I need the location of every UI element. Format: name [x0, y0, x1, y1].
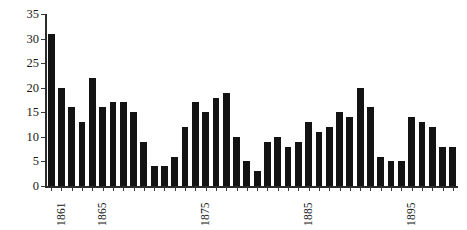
x-axis-tick-mark: [391, 187, 392, 191]
x-axis-tick-mark: [401, 187, 402, 191]
x-axis-tick-mark: [360, 187, 361, 191]
bar: [161, 166, 168, 186]
bar: [388, 161, 395, 186]
y-axis-tick-label: 5: [33, 155, 39, 167]
x-axis-tick-mark: [350, 187, 351, 191]
x-axis-tick-labels: 18611865187518851895: [46, 192, 458, 230]
bar: [439, 147, 446, 186]
x-axis-tick-mark: [61, 187, 62, 191]
x-axis-tick-label: 1895: [406, 202, 417, 226]
x-axis-tick-mark: [370, 187, 371, 191]
x-axis-tick-mark: [381, 187, 382, 191]
x-axis-tick-mark: [103, 187, 104, 191]
bar: [79, 122, 86, 186]
bar: [274, 137, 281, 186]
bar: [346, 117, 353, 186]
bar: [408, 117, 415, 186]
bar: [295, 142, 302, 186]
bar: [357, 88, 364, 186]
x-axis-tick-mark: [82, 187, 83, 191]
x-axis-tick-mark: [329, 187, 330, 191]
x-axis-tick-mark: [72, 187, 73, 191]
x-axis-tick-mark: [185, 187, 186, 191]
bar-chart-figure: 05101520253035 18611865187518851895: [0, 0, 467, 230]
bar: [130, 112, 137, 186]
bar: [68, 107, 75, 186]
x-axis-tick-label: 1885: [303, 202, 314, 226]
bar: [326, 127, 333, 186]
x-axis-tick-mark: [432, 187, 433, 191]
bar: [336, 112, 343, 186]
bar: [449, 147, 456, 186]
x-axis-tick-mark: [51, 187, 52, 191]
x-axis-tick-mark: [206, 187, 207, 191]
x-axis-tick-mark: [319, 187, 320, 191]
bar: [419, 122, 426, 186]
bar: [264, 142, 271, 186]
x-axis-tick-mark: [237, 187, 238, 191]
bar: [223, 93, 230, 186]
x-axis-tick-mark: [134, 187, 135, 191]
bar: [305, 122, 312, 186]
x-axis-tick-mark: [195, 187, 196, 191]
bar: [58, 88, 65, 186]
x-axis-tick-mark: [247, 187, 248, 191]
x-axis-tick-mark: [309, 187, 310, 191]
x-axis-tick-mark: [154, 187, 155, 191]
y-axis-tick-label: 10: [27, 131, 40, 143]
bar: [151, 166, 158, 186]
bar: [254, 171, 261, 186]
y-axis-tick-label: 20: [27, 82, 40, 94]
bar: [243, 161, 250, 186]
x-axis-tick-mark: [422, 187, 423, 191]
x-axis-tick-mark: [175, 187, 176, 191]
x-axis-tick-mark: [278, 187, 279, 191]
plot-area: [46, 14, 458, 186]
x-axis-tick-mark: [226, 187, 227, 191]
x-axis-tick-mark: [298, 187, 299, 191]
x-axis-tick-mark: [267, 187, 268, 191]
bar: [110, 102, 117, 186]
bar: [285, 147, 292, 186]
x-axis-tick-mark: [412, 187, 413, 191]
bar: [429, 127, 436, 186]
x-axis-tick-mark: [164, 187, 165, 191]
bar: [182, 127, 189, 186]
x-axis-tick-mark: [257, 187, 258, 191]
y-axis-tick-label: 25: [27, 57, 40, 69]
bar: [99, 107, 106, 186]
y-axis-tick-label: 0: [33, 180, 39, 192]
x-axis-tick-label: 1875: [200, 202, 211, 226]
bar: [377, 157, 384, 186]
y-axis-tick-label: 35: [27, 8, 40, 20]
bar: [316, 132, 323, 186]
bar: [202, 112, 209, 186]
bar-series: [46, 14, 458, 186]
y-axis-tick-label: 15: [27, 106, 40, 118]
bar: [398, 161, 405, 186]
bar: [367, 107, 374, 186]
bar: [192, 102, 199, 186]
y-axis-tick-label: 30: [27, 33, 40, 45]
x-axis-tick-mark: [144, 187, 145, 191]
x-axis-tick-mark: [340, 187, 341, 191]
bar: [120, 102, 127, 186]
x-axis-tick-mark: [443, 187, 444, 191]
bar: [233, 137, 240, 186]
bar: [89, 78, 96, 186]
x-axis-tick-mark: [92, 187, 93, 191]
bar: [48, 34, 55, 186]
bar: [213, 98, 220, 186]
x-axis-tick-label: 1861: [56, 202, 67, 226]
x-axis-tick-mark: [216, 187, 217, 191]
x-axis-tick-mark: [123, 187, 124, 191]
x-axis-tick-mark: [288, 187, 289, 191]
x-axis-tick-mark: [113, 187, 114, 191]
bar: [140, 142, 147, 186]
x-axis-tick-mark: [453, 187, 454, 191]
x-axis-tick-label: 1865: [97, 202, 108, 226]
y-axis: 05101520253035: [0, 0, 46, 196]
bar: [171, 157, 178, 186]
